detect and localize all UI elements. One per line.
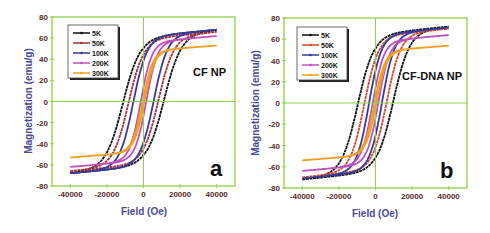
y-tick-label: 60 (271, 35, 280, 44)
y-tick-label: 60 (39, 34, 48, 43)
x-tick-label: -40000 (58, 190, 83, 199)
y-tick-label: 0 (276, 99, 281, 108)
x-tick-label: 20000 (401, 192, 424, 201)
y-tick-label: -80 (36, 182, 48, 191)
sample-annotation: CF-DNA NP (402, 70, 462, 82)
legend-label: 100K (321, 52, 338, 59)
legend-label: 5K (92, 30, 101, 37)
y-tick-label: 20 (271, 78, 280, 87)
legend-label: 300K (92, 70, 109, 77)
chart-b-svg: -80-60-40-20020406080 -40000-20000020000… (245, 0, 490, 233)
y-tick-label: -60 (36, 161, 48, 170)
x-tick-label: 20000 (169, 190, 192, 199)
y-tick-label: -20 (36, 119, 48, 128)
panel-letter: b (440, 158, 453, 183)
y-tick-label: 20 (39, 76, 48, 85)
y-tick-label: 80 (271, 14, 280, 23)
x-tick-label: -20000 (94, 190, 119, 199)
legend-label: 5K (321, 32, 330, 39)
y-tick-label: -60 (268, 163, 280, 172)
legend-label: 200K (92, 60, 109, 67)
legend-label: 300K (321, 72, 338, 79)
legend-label: 50K (321, 42, 334, 49)
sample-annotation: CF NP (193, 66, 226, 78)
y-tick-label: 40 (39, 55, 48, 64)
y-tick-label: 40 (271, 57, 280, 66)
legend: 5K50K100K200K300K (297, 27, 349, 82)
panel-letter: a (210, 156, 223, 181)
legend-label: 50K (92, 40, 105, 47)
y-tick-labels: -80-60-40-20020406080 (268, 14, 280, 193)
y-tick-label: -40 (36, 140, 48, 149)
x-axis-label: Field (Oe) (121, 206, 167, 217)
legend-label: 100K (92, 50, 109, 57)
chart-a-svg: -80-60-40-20020406080 -40000-20000020000… (0, 0, 245, 233)
chart-panel-a: -80-60-40-20020406080 -40000-20000020000… (0, 0, 245, 233)
x-axis-label: Field (Oe) (352, 208, 398, 219)
x-tick-label: 0 (141, 190, 146, 199)
x-tick-label: 40000 (206, 190, 229, 199)
legend-label: 200K (321, 62, 338, 69)
y-tick-label: -80 (268, 184, 280, 193)
y-tick-labels: -80-60-40-20020406080 (36, 13, 48, 191)
x-tick-label: -40000 (290, 192, 315, 201)
x-tick-label: 40000 (438, 192, 461, 201)
y-tick-label: 0 (44, 98, 49, 107)
y-tick-label: -20 (268, 120, 280, 129)
legend: 5K50K100K200K300K (68, 25, 120, 80)
chart-panel-b: -80-60-40-20020406080 -40000-20000020000… (245, 0, 490, 233)
x-tick-label: 0 (373, 192, 378, 201)
x-tick-label: -20000 (326, 192, 351, 201)
y-tick-label: 80 (39, 13, 48, 22)
x-tick-labels: -40000-2000002000040000 (290, 192, 461, 201)
x-tick-labels: -40000-2000002000040000 (58, 190, 229, 199)
y-axis-label: Magnetization (emu/g) (23, 48, 34, 154)
y-axis-label: Magnetization (emu/g) (250, 50, 261, 156)
y-tick-label: -40 (268, 142, 280, 151)
